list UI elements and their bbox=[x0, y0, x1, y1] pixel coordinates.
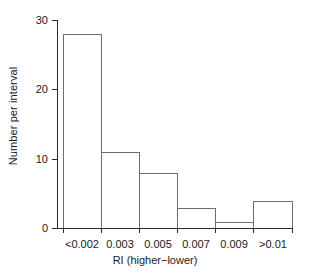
x-tick-mark-5 bbox=[253, 228, 254, 233]
y-tick-label-10: 10 bbox=[8, 154, 48, 165]
x-tick-label-5: >0.01 bbox=[245, 238, 301, 250]
y-tick-label-0: 0 bbox=[8, 223, 48, 234]
x-tick-mark-1 bbox=[101, 228, 102, 233]
y-axis-line bbox=[57, 20, 58, 229]
y-tick-label-30: 30 bbox=[8, 15, 48, 26]
bar-0 bbox=[63, 34, 102, 229]
bar-5 bbox=[253, 201, 293, 229]
x-tick-mark-2 bbox=[139, 228, 140, 233]
histogram-figure: Number per interval 0 10 20 30 <0.002 0.… bbox=[0, 0, 310, 280]
y-tick-label-20: 20 bbox=[8, 84, 48, 95]
x-tick-mark-4 bbox=[215, 228, 216, 233]
x-tick-mark-3 bbox=[177, 228, 178, 233]
x-axis-label: RI (higher−lower) bbox=[0, 254, 310, 266]
x-tick-mark-0 bbox=[63, 228, 64, 233]
bar-2 bbox=[139, 173, 178, 229]
y-axis-label: Number per interval bbox=[7, 67, 19, 166]
bar-3 bbox=[177, 208, 216, 229]
bar-4 bbox=[215, 222, 254, 229]
y-tick-mark-30 bbox=[52, 20, 57, 21]
y-axis-label-container: Number per interval bbox=[0, 0, 26, 232]
y-tick-mark-10 bbox=[52, 159, 57, 160]
y-tick-mark-0 bbox=[52, 228, 57, 229]
x-tick-mark-6 bbox=[292, 228, 293, 233]
bar-1 bbox=[101, 152, 140, 229]
y-tick-mark-20 bbox=[52, 89, 57, 90]
